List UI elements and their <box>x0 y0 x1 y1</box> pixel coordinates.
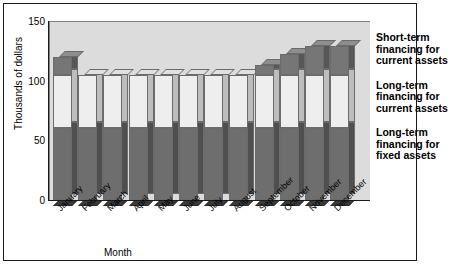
legend: Short-term financing for current assets … <box>376 32 452 175</box>
legend-item-long-term-current: Long-term financing for current assets <box>376 80 452 115</box>
bar-segment-side-curlong <box>299 69 305 123</box>
bar-segment-curlong <box>255 75 274 129</box>
bar-segment-fixed <box>129 128 148 200</box>
bar-segment-shortterm <box>280 54 299 74</box>
x-axis-title: Month <box>104 247 132 258</box>
bar-segment-curlong <box>179 75 198 129</box>
bar-segment-curlong <box>103 75 122 129</box>
bar-segment-side-curlong <box>97 69 103 123</box>
bar-segment-curlong <box>53 75 72 129</box>
bar-segment-shortterm <box>255 65 274 75</box>
bar-segment-side-curlong <box>324 69 330 123</box>
bar-segment-shortterm <box>330 46 349 75</box>
y-axis-tick-group: 150 100 50 0 <box>4 4 45 266</box>
bar-segment-side-curlong <box>198 69 204 123</box>
legend-item-short-term: Short-term financing for current assets <box>376 32 452 67</box>
bar-segment-fixed <box>229 128 248 200</box>
bar-segment-fixed <box>154 128 173 200</box>
y-axis-title: Thousands of dollars <box>13 14 24 154</box>
bar-segment-shortterm <box>53 57 72 75</box>
bar-segment-curlong <box>78 75 97 129</box>
bar-segment-curlong <box>154 75 173 129</box>
legend-item-long-term-fixed: Long-term financing for fixed assets <box>376 127 452 162</box>
bar-segment-side-curlong <box>72 69 78 123</box>
bar-segment-fixed <box>53 128 72 200</box>
legend-line-3: current assets <box>376 103 452 115</box>
bar-segment-curlong <box>129 75 148 129</box>
bar-segment-curlong <box>330 75 349 129</box>
legend-line-1: Long-term <box>376 127 452 139</box>
bar-segment-curlong <box>204 75 223 129</box>
bar-segment-curlong <box>229 75 248 129</box>
bar-segment-curlong <box>305 75 324 129</box>
bar-segment-fixed <box>255 128 274 200</box>
bar-segment-side-fixed <box>248 122 254 194</box>
bar-segment-side-curlong <box>148 69 154 123</box>
bar-segment-side-curlong <box>248 69 254 123</box>
bar-segment-side-curlong <box>122 69 128 123</box>
bar-segment-side-fixed <box>148 122 154 194</box>
bar-segment-fixed <box>179 128 198 200</box>
bar-segment-side-fixed <box>198 122 204 194</box>
bar-segment-side-curlong <box>173 69 179 123</box>
legend-line-1: Short-term <box>376 32 452 44</box>
bar-segment-shortterm <box>305 46 324 75</box>
y-tick-50: 50 <box>34 135 45 146</box>
plot-area <box>49 21 369 200</box>
bar-segment-curlong <box>280 75 299 129</box>
legend-line-3: current assets <box>376 55 452 67</box>
bar-segment-side-curlong <box>223 69 229 123</box>
bar-segment-side-fixed <box>173 122 179 194</box>
bar-segment-side-curlong <box>274 69 280 123</box>
legend-line-3: fixed assets <box>376 150 452 162</box>
bar-segment-fixed <box>204 128 223 200</box>
y-tick-150: 150 <box>28 16 45 27</box>
chart-frame: 150 100 50 0 Thousands of dollars Januar… <box>3 3 417 261</box>
y-axis-line <box>48 21 49 201</box>
bar-segment-side-curlong <box>349 69 355 123</box>
bar-segment-side-fixed <box>223 122 229 194</box>
y-tick-0: 0 <box>39 195 45 206</box>
legend-line-2: financing for <box>376 91 452 103</box>
y-tick-100: 100 <box>28 76 45 87</box>
bar-segment-side-fixed <box>122 122 128 194</box>
